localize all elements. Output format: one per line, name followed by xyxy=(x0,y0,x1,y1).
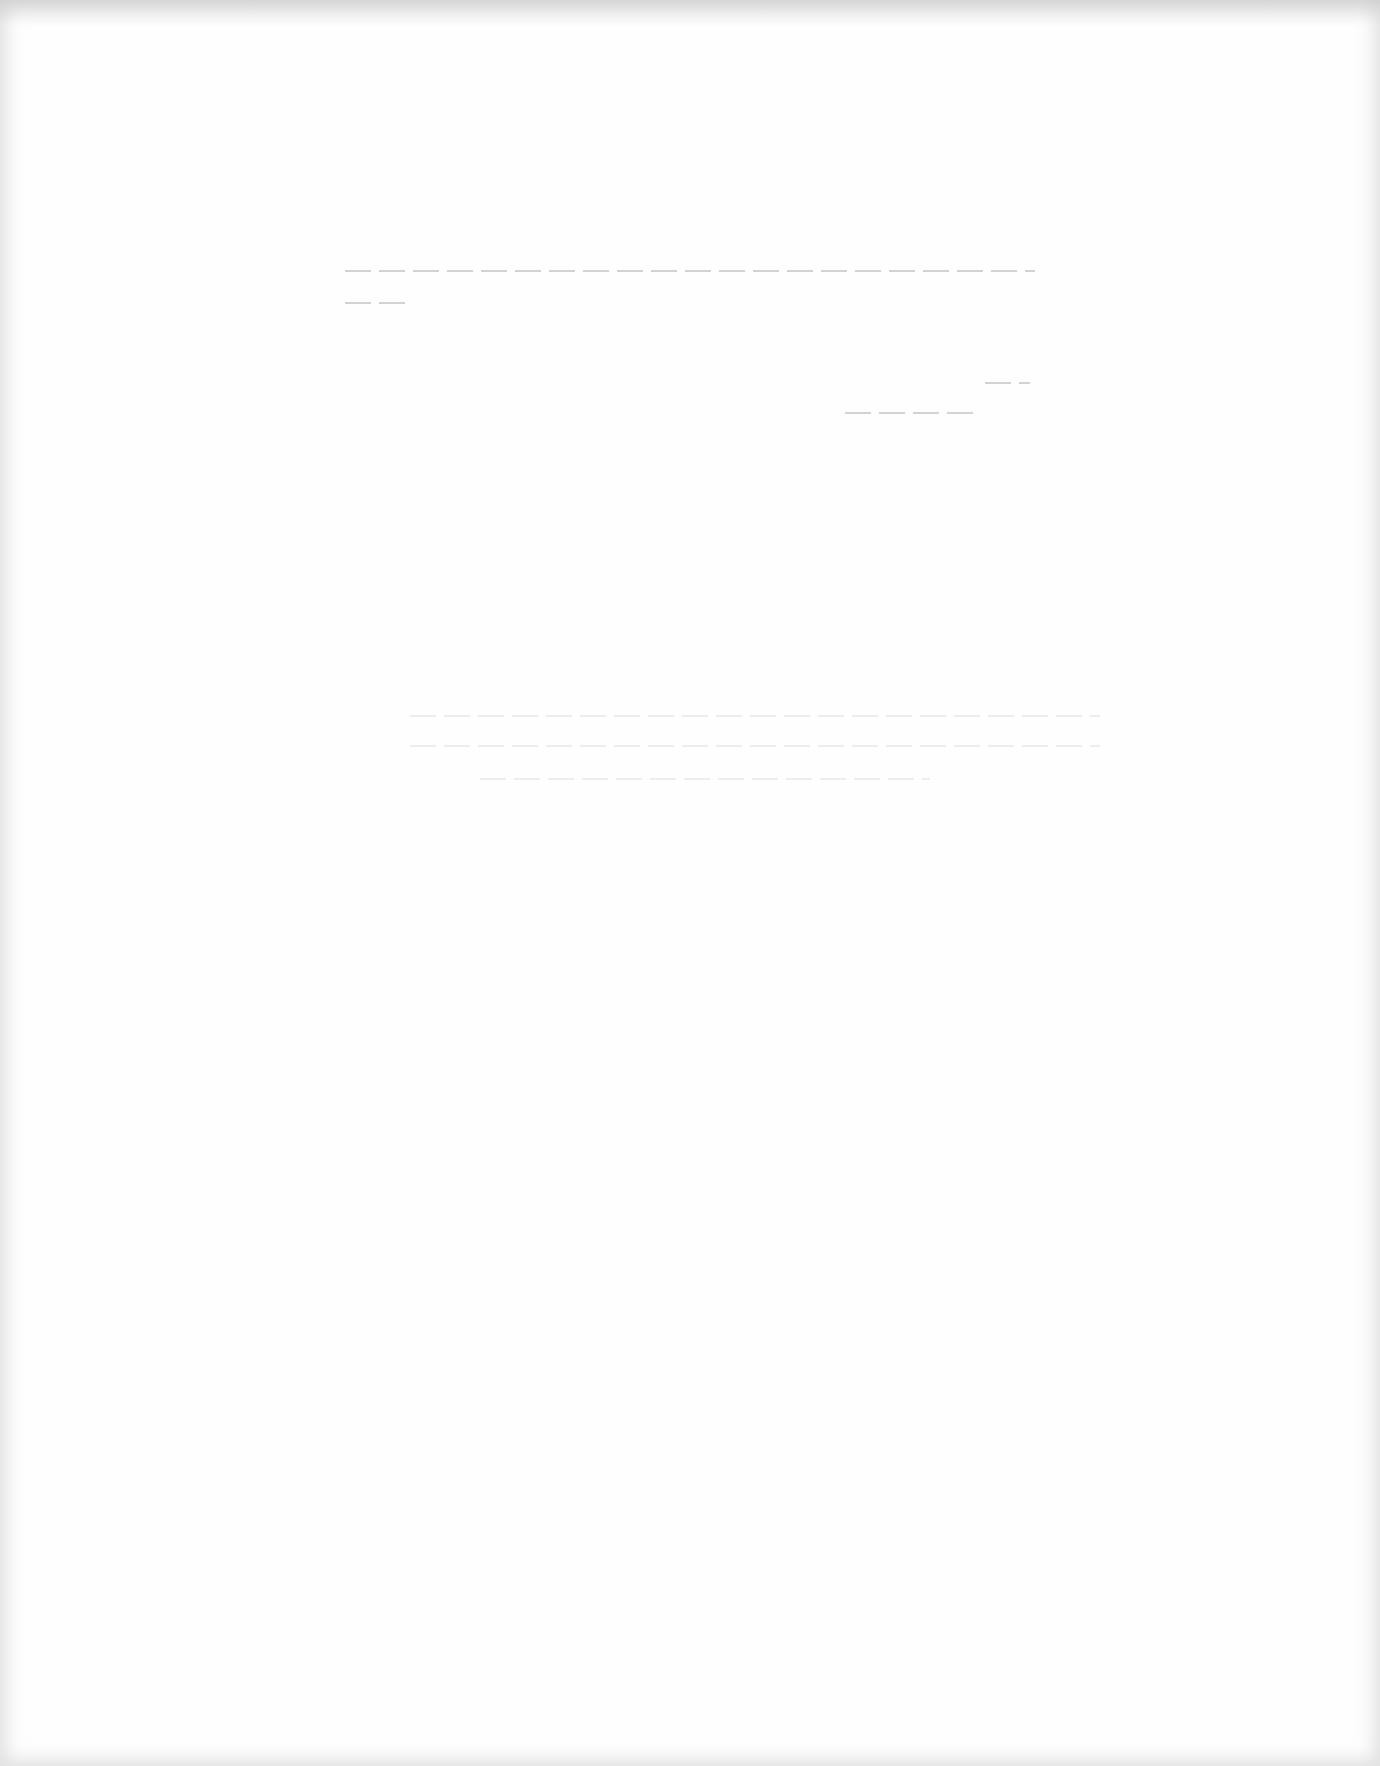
faded-text-line-4 xyxy=(845,412,975,414)
faded-text-line-1 xyxy=(345,270,1035,272)
faded-text-line-2 xyxy=(345,302,410,304)
faded-text-line-5 xyxy=(410,715,1100,717)
faded-text-line-6 xyxy=(410,745,1100,747)
scan-edge xyxy=(0,0,1380,26)
faded-text-line-7 xyxy=(480,778,930,780)
faded-text-line-3 xyxy=(985,382,1030,384)
scanned-page xyxy=(0,0,1380,1766)
